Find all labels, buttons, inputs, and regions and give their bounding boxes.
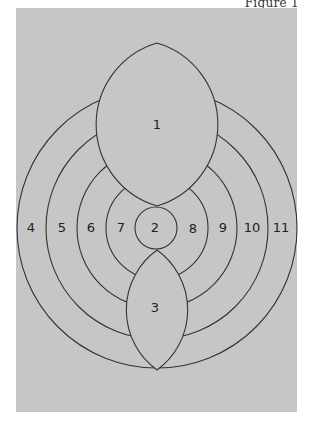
- region-label-10: 10: [244, 220, 261, 235]
- region-label-4: 4: [27, 220, 35, 235]
- region-label-5: 5: [58, 220, 66, 235]
- region-label-6: 6: [87, 220, 95, 235]
- region-label-11: 11: [273, 220, 290, 235]
- region-label-3: 3: [151, 300, 159, 315]
- region-label-1: 1: [153, 117, 161, 132]
- region-label-9: 9: [219, 220, 227, 235]
- nested-regions-diagram: 1 2 3 4 5 6 7 8 9 10 11: [0, 0, 311, 429]
- region-label-8: 8: [189, 221, 197, 236]
- region-label-7: 7: [117, 220, 125, 235]
- region-label-2: 2: [151, 220, 159, 235]
